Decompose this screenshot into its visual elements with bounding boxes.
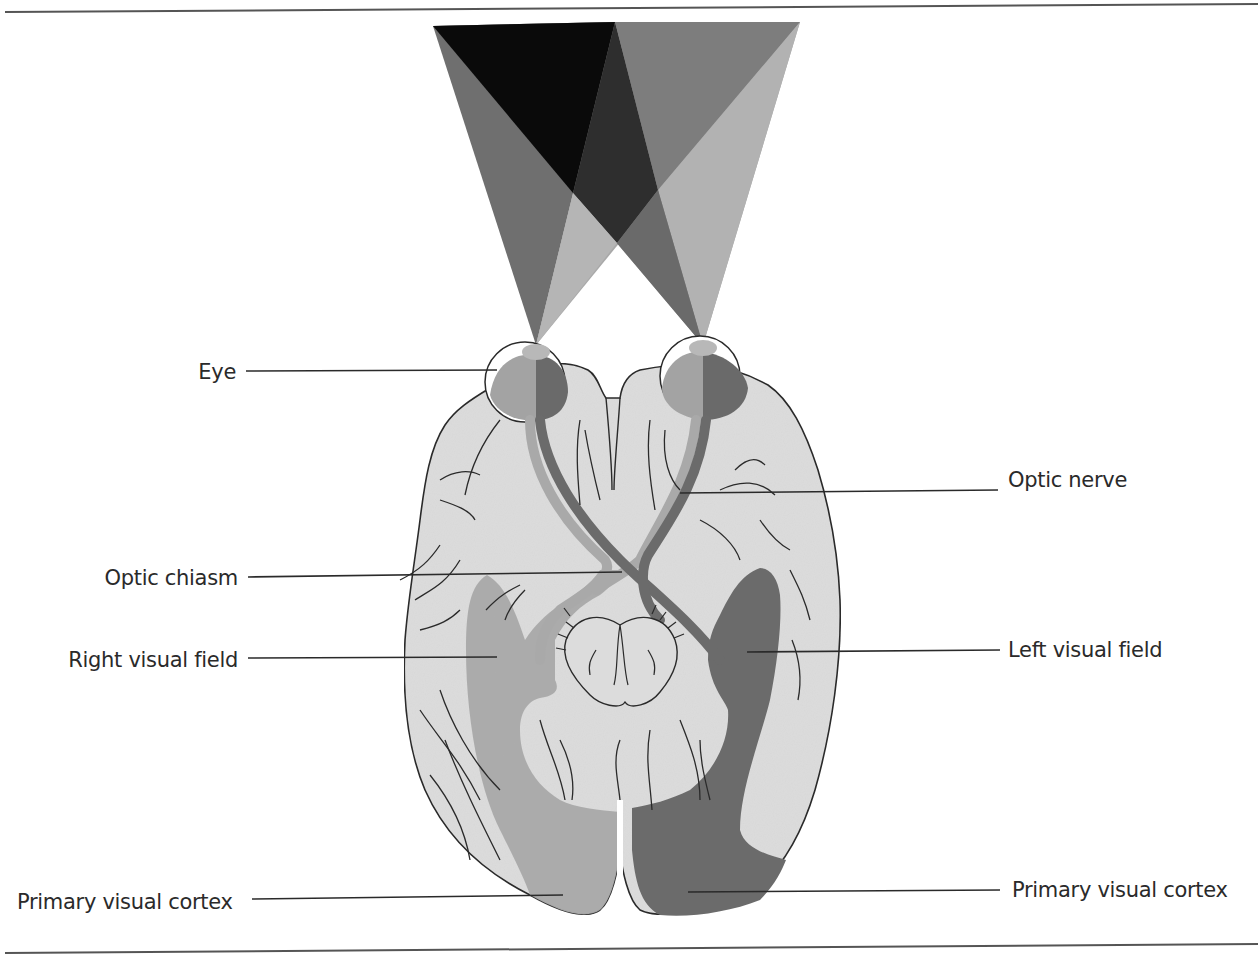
primary-visual-cortex-right-label: Primary visual cortex xyxy=(1012,880,1228,901)
left-visual-field-label: Left visual field xyxy=(1008,640,1162,661)
right-visual-field-leader xyxy=(248,657,497,658)
left-eye xyxy=(485,342,568,422)
top-rule xyxy=(5,4,1258,12)
bottom-rule xyxy=(5,944,1258,953)
optic-chiasm-label: Optic chiasm xyxy=(104,568,238,589)
pvc-left-leader xyxy=(252,895,563,899)
eye-label: Eye xyxy=(198,362,236,383)
right-visual-field-label: Right visual field xyxy=(68,650,238,671)
optic-nerve-label: Optic nerve xyxy=(1008,470,1127,491)
visual-field-cones xyxy=(433,22,800,345)
eye-leader xyxy=(246,370,497,371)
right-eye xyxy=(660,336,748,420)
primary-visual-cortex-left-label: Primary visual cortex xyxy=(17,892,233,913)
